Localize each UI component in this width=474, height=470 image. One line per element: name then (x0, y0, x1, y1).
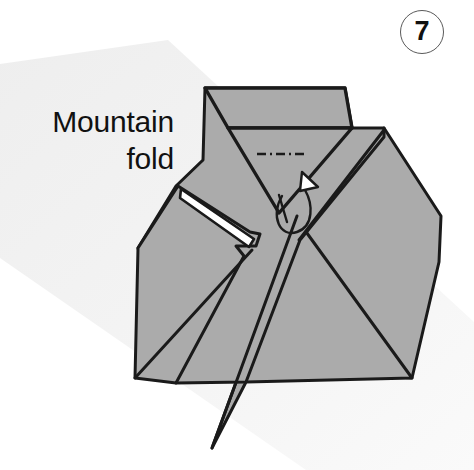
mountain-fold-label: Mountain fold (14, 104, 174, 177)
step-number-badge: 7 (400, 10, 444, 54)
origami-figure-svg (0, 0, 474, 470)
origami-step-diagram: Mountain fold 7 (0, 0, 474, 470)
step-number-text: 7 (414, 18, 429, 45)
collar-band (205, 88, 352, 128)
